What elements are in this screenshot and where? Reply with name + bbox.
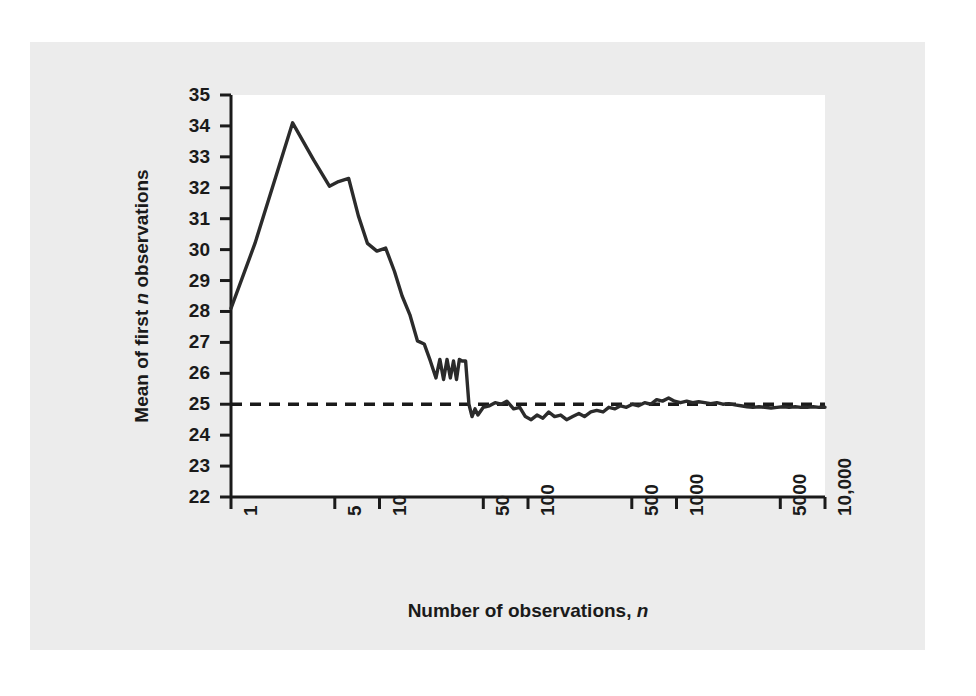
y-axis-tick-label: 34 <box>156 115 210 137</box>
y-axis-tick-label: 33 <box>156 146 210 168</box>
x-axis-ticks <box>231 497 825 509</box>
y-axis-ticks <box>220 95 231 497</box>
x-axis-title-italic-n: n <box>637 600 649 621</box>
axis-lines <box>231 95 825 497</box>
y-axis-tick-label: 35 <box>156 84 210 106</box>
x-axis-tick-label: 50 <box>492 495 514 516</box>
y-axis-tick-label: 29 <box>156 270 210 292</box>
y-axis-tick-label: 24 <box>156 424 210 446</box>
y-axis-tick-label: 23 <box>156 455 210 477</box>
x-axis-tick-label: 5 <box>344 505 366 516</box>
y-axis-tick-label: 32 <box>156 177 210 199</box>
y-axis-title-part2: observations <box>131 169 152 293</box>
x-axis-tick-label: 10 <box>389 495 411 516</box>
x-axis-tick-label: 100 <box>537 484 559 516</box>
figure-root: 2223242526272829303132333435 15105010050… <box>0 0 976 696</box>
x-axis-title: Number of observations, n <box>231 600 825 622</box>
y-axis-tick-label: 30 <box>156 239 210 261</box>
y-axis-tick-label: 25 <box>156 393 210 415</box>
y-axis-tick-label: 31 <box>156 208 210 230</box>
y-axis-tick-label: 22 <box>156 486 210 508</box>
x-axis-tick-label: 5000 <box>789 474 811 516</box>
y-axis-tick-label: 28 <box>156 300 210 322</box>
x-axis-tick-label: 1 <box>240 505 262 516</box>
y-axis-title-part1: Mean of first <box>131 304 152 422</box>
x-axis-title-prefix: Number of observations, <box>408 600 637 621</box>
x-axis-tick-label: 500 <box>641 484 663 516</box>
y-axis-tick-label: 27 <box>156 331 210 353</box>
y-axis-tick-label: 26 <box>156 362 210 384</box>
y-axis-title: Mean of first n observations <box>131 169 153 422</box>
x-axis-tick-label: 1000 <box>686 474 708 516</box>
x-axis-tick-label: 10,000 <box>834 458 856 516</box>
running-mean-line <box>231 123 825 420</box>
y-axis-title-italic-n: n <box>131 293 152 305</box>
